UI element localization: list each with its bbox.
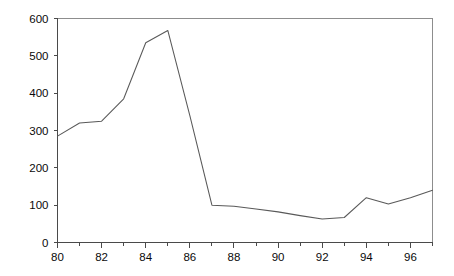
x-tick-label: 86 bbox=[183, 251, 196, 263]
y-tick-label: 300 bbox=[29, 125, 48, 137]
y-tick-label: 600 bbox=[29, 13, 48, 25]
y-tick-label: 200 bbox=[29, 162, 48, 174]
x-tick-label: 96 bbox=[404, 251, 417, 263]
x-tick-label: 80 bbox=[51, 251, 64, 263]
y-tick-label: 100 bbox=[29, 199, 48, 211]
x-tick-label: 82 bbox=[95, 251, 108, 263]
y-tick-label: 400 bbox=[29, 87, 48, 99]
x-tick-label: 92 bbox=[316, 251, 329, 263]
y-tick-label: 0 bbox=[42, 237, 48, 249]
x-tick-label: 84 bbox=[139, 251, 152, 263]
chart-background bbox=[0, 0, 454, 276]
x-axis-tick-labels: 808284868890929496 bbox=[51, 251, 417, 263]
x-tick-label: 88 bbox=[228, 251, 241, 263]
line-chart: 0100200300400500600 808284868890929496 bbox=[0, 0, 454, 276]
y-tick-label: 500 bbox=[29, 50, 48, 62]
chart-canvas: 0100200300400500600 808284868890929496 bbox=[0, 0, 454, 276]
x-tick-label: 90 bbox=[272, 251, 285, 263]
x-tick-label: 94 bbox=[360, 251, 373, 263]
